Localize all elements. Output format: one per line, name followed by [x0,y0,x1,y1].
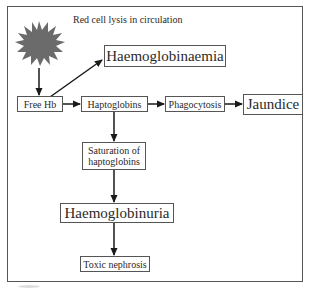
node-phagocytosis: Phagocytosis [165,96,225,112]
node-haptoglobins: Haptoglobins [81,96,148,112]
node-jaundice: Jaundice [243,94,303,115]
arrows-layer [0,0,311,290]
node-haemoglobinaemia: Haemoglobinaemia [104,45,226,67]
lysis-starburst-icon [15,21,65,66]
node-free-hb: Free Hb [17,96,63,112]
arrow-freehb-to-haemoglobinaemia [50,60,102,97]
node-haemoglobinuria: Haemoglobinuria [60,203,174,223]
saturation-line-2: haptoglobins [88,156,140,167]
node-saturation-of-haptoglobins: Saturation of haptoglobins [82,142,146,170]
caption-red-cell-lysis: Red cell lysis in circulation [73,14,182,25]
node-toxic-nephrosis: Toxic nephrosis [80,256,150,272]
saturation-line-1: Saturation of [88,145,140,156]
scan-artifact [18,285,40,288]
